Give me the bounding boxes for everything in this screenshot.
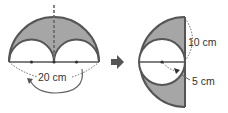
diagram-canvas: 20 cm 10 cm 5 cm <box>0 0 228 113</box>
left-dot-2 <box>75 60 78 63</box>
left-dot-1 <box>30 60 33 63</box>
right-small-radius-label: 5 cm <box>192 75 215 87</box>
left-figure: 20 cm <box>9 5 99 93</box>
left-diameter-label: 20 cm <box>38 71 67 83</box>
transform-arrow <box>111 55 124 69</box>
right-figure: 10 cm 5 cm <box>139 17 217 107</box>
left-dot-center <box>52 60 55 63</box>
right-big-radius-label: 10 cm <box>188 36 217 48</box>
